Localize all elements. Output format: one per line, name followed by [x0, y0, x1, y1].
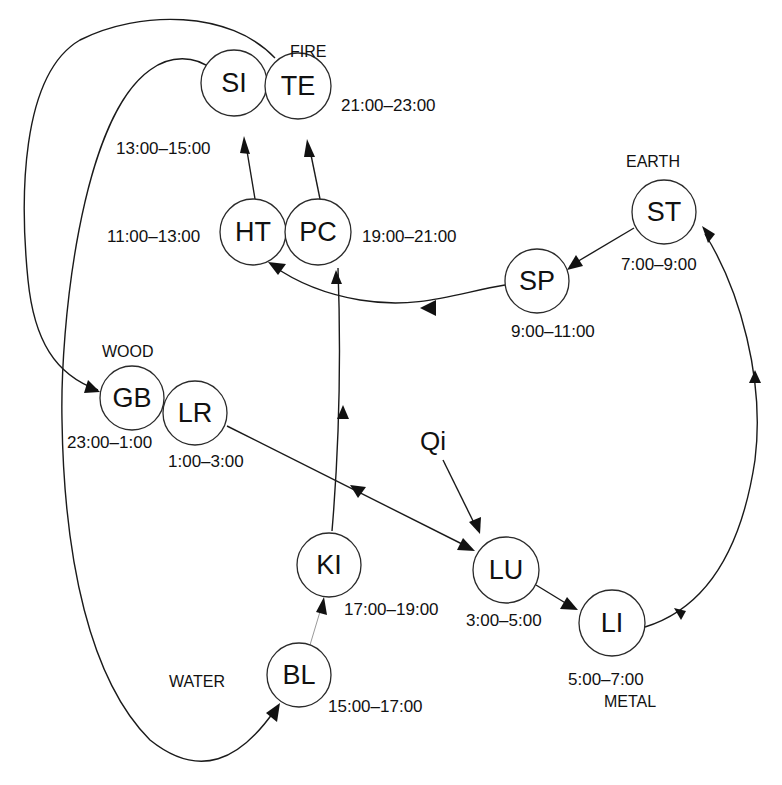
time-label-te: 21:00–23:00 [341, 96, 436, 115]
arrow-li-st-mid [749, 370, 761, 383]
node-label-si: SI [221, 68, 247, 98]
node-label-lr: LR [178, 398, 213, 428]
node-st: ST [632, 180, 696, 244]
arrow-li-st-end [702, 226, 715, 243]
time-label-bl: 15:00–17:00 [328, 697, 423, 716]
node-label-lu: LU [489, 555, 524, 585]
node-label-ki: KI [316, 550, 342, 580]
node-te: TE [265, 53, 331, 119]
arrow-pc-te [304, 139, 315, 157]
node-lu: LU [473, 537, 539, 603]
node-label-sp: SP [519, 266, 555, 296]
edge-qi-lu [443, 460, 476, 527]
time-label-lu: 3:00–5:00 [466, 611, 542, 630]
time-label-ht: 11:00–13:00 [107, 227, 200, 246]
node-gb: GB [100, 366, 164, 430]
edge-pc-te [310, 150, 320, 199]
arrow-li-st-low [674, 608, 686, 620]
node-label-st: ST [647, 197, 682, 227]
time-label-li: 5:00–7:00 [568, 670, 644, 689]
element-label-earth: EARTH [626, 153, 680, 170]
element-label-water: WATER [169, 673, 225, 690]
meridian-cycle-diagram: SI TE HT PC ST SP GB LR KI LU LI BL [0, 0, 782, 785]
edge-li-st [645, 234, 757, 627]
arrow-ki-pc-end [331, 270, 342, 284]
node-label-li: LI [601, 608, 624, 638]
arrow-lu-li [560, 597, 578, 610]
node-label-gb: GB [112, 383, 151, 413]
node-ki: KI [297, 533, 361, 597]
arrow-sp-ht-mid [420, 300, 436, 316]
element-label-metal: METAL [604, 693, 656, 710]
arrow-bl-ki [316, 597, 327, 615]
node-ht: HT [220, 199, 286, 265]
node-label-te: TE [281, 71, 316, 101]
node-bl: BL [267, 643, 331, 707]
arrow-qi-lu [469, 517, 481, 534]
edge-ki-pc [332, 268, 340, 531]
arrow-te-gb [84, 380, 100, 393]
time-label-sp: 9:00–11:00 [511, 322, 595, 341]
time-label-gb: 23:00–1:00 [67, 433, 152, 452]
element-label-wood: WOOD [102, 343, 154, 360]
node-pc: PC [285, 199, 351, 265]
node-sp: SP [505, 249, 569, 313]
node-si: SI [201, 50, 267, 116]
time-label-lr: 1:00–3:00 [168, 452, 244, 471]
time-label-pc: 19:00–21:00 [362, 227, 457, 246]
time-label-ki: 17:00–19:00 [344, 600, 439, 619]
node-label-bl: BL [282, 660, 315, 690]
node-li: LI [579, 590, 645, 656]
time-label-si: 13:00–15:00 [116, 139, 211, 158]
edge-sp-ht [272, 265, 505, 303]
arrow-st-sp [567, 255, 583, 270]
arrow-lr-lu-mid [350, 485, 366, 498]
qi-label: Qi [420, 426, 446, 456]
node-lr: LR [163, 381, 227, 445]
time-label-st: 7:00–9:00 [621, 255, 697, 274]
arrow-lr-lu-end [457, 538, 475, 551]
node-label-pc: PC [299, 217, 337, 247]
node-label-ht: HT [235, 217, 271, 247]
arrow-ht-si [240, 136, 250, 154]
element-label-fire: FIRE [290, 43, 326, 60]
